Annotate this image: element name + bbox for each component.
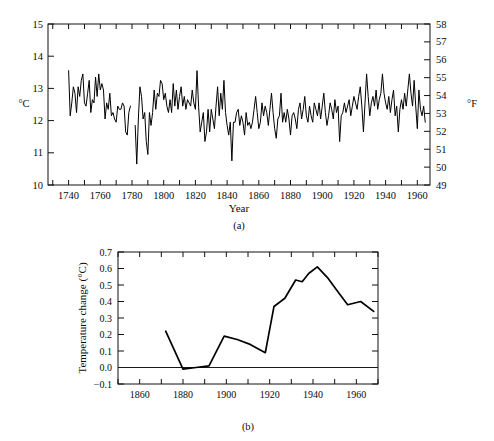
chart-a-y2tick-49: 49 <box>436 180 447 191</box>
chart-a-y2tick-50: 50 <box>436 162 447 173</box>
chart-a-x-axis-title: Year <box>229 202 250 214</box>
chart-b-xtick-1900: 1900 <box>216 389 236 400</box>
chart-b-xtick-1940: 1940 <box>303 389 323 400</box>
chart-b-ytick-5: 0.4 <box>100 296 113 307</box>
chart-b-ytick-7: 0.6 <box>100 263 113 274</box>
chart-a-xtick-1740: 1740 <box>58 190 79 201</box>
chart-a-y2tick-58: 58 <box>436 19 447 30</box>
chart-b-xtick-1860: 1860 <box>130 389 150 400</box>
chart-a-ytick-15: 15 <box>33 19 44 30</box>
chart-a-y2tick-54: 54 <box>436 90 447 101</box>
chart-a-xtick-1920: 1920 <box>343 190 364 201</box>
chart-a-xtick-1860: 1860 <box>248 190 269 201</box>
chart-a-ytick-11: 11 <box>33 147 43 158</box>
figure-container: 1740176017801800182018401860188019001920… <box>0 0 494 441</box>
chart-a-y2tick-56: 56 <box>436 54 447 65</box>
chart-b-xtick-1880: 1880 <box>173 389 193 400</box>
chart-b-ytick-2: 0.1 <box>100 346 113 357</box>
chart-a-right-unit-label: °F <box>467 98 477 109</box>
chart-a-xtick-1820: 1820 <box>185 190 206 201</box>
chart-a-y2tick-52: 52 <box>436 126 447 137</box>
panel-a: 1740176017801800182018401860188019001920… <box>0 0 494 232</box>
chart-a-ytick-10: 10 <box>33 180 44 191</box>
chart-a-ytick-13: 13 <box>33 83 44 94</box>
chart-b-xtick-1920: 1920 <box>260 389 280 400</box>
chart-b-ytick-6: 0.5 <box>100 280 113 291</box>
chart-b-ytick-3: 0.2 <box>100 329 113 340</box>
chart-a-svg: 1740176017801800182018401860188019001920… <box>0 0 494 232</box>
chart-b-caption: (b) <box>242 421 255 433</box>
chart-b-axes <box>118 252 378 384</box>
chart-a-xtick-1940: 1940 <box>375 190 396 201</box>
panel-b: 186018801900192019401960−0.10.00.10.20.3… <box>0 232 494 441</box>
chart-a-axes <box>48 24 430 185</box>
chart-a-y2tick-57: 57 <box>436 36 447 47</box>
chart-a-series-line <box>69 71 426 164</box>
chart-a-y2tick-53: 53 <box>436 108 447 119</box>
chart-b-ytick-1: 0.0 <box>100 362 113 373</box>
chart-a-caption: (a) <box>233 220 245 232</box>
chart-b-ytick-4: 0.3 <box>100 313 113 324</box>
chart-a-y2tick-55: 55 <box>436 72 447 83</box>
chart-a-y2tick-51: 51 <box>436 144 447 155</box>
chart-b-series-line <box>166 267 374 369</box>
chart-a-xtick-1760: 1760 <box>90 190 111 201</box>
chart-a-xtick-1900: 1900 <box>312 190 333 201</box>
chart-a-ytick-14: 14 <box>33 51 44 62</box>
chart-a-xtick-1800: 1800 <box>153 190 174 201</box>
chart-a-left-unit-label: °C <box>18 98 29 109</box>
chart-a-xtick-1780: 1780 <box>122 190 143 201</box>
chart-b-svg: 186018801900192019401960−0.10.00.10.20.3… <box>0 232 494 441</box>
chart-a-xtick-1960: 1960 <box>407 190 428 201</box>
chart-a-tick-labels: 1740176017801800182018401860188019001920… <box>33 19 448 202</box>
chart-a-xtick-1880: 1880 <box>280 190 301 201</box>
chart-b-ytick-8: 0.7 <box>100 247 113 258</box>
chart-b-xtick-1960: 1960 <box>346 389 366 400</box>
chart-b-y-axis-title: Temperature change (°C) <box>76 262 89 373</box>
chart-b-ytick-0: −0.1 <box>94 379 112 390</box>
chart-b-tick-labels: 186018801900192019401960−0.10.00.10.20.3… <box>94 247 366 401</box>
chart-a-xtick-1840: 1840 <box>217 190 238 201</box>
chart-a-ytick-12: 12 <box>33 115 44 126</box>
